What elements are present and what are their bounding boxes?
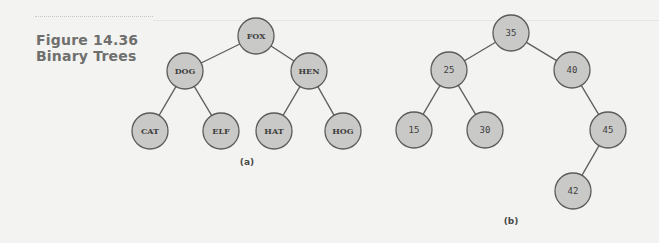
node-label: HAT — [264, 126, 283, 136]
node-label: 42 — [568, 186, 579, 196]
binary-trees-diagram: FOXDOGHENCATELFHATHOG 35254015304542 — [0, 0, 659, 243]
tree-b: 35254015304542 — [396, 15, 626, 209]
edge-HEN-HAT — [283, 87, 300, 116]
node-label: 35 — [506, 28, 517, 38]
edge-45-42 — [582, 146, 599, 176]
edge-25-15 — [423, 86, 440, 115]
tree-node-HAT: HAT — [256, 113, 292, 149]
tree-node-HEN: HEN — [291, 53, 327, 89]
node-label: CAT — [141, 126, 159, 136]
tree-node-42: 42 — [555, 173, 591, 209]
edge-25-30 — [458, 85, 475, 114]
tree-node-25: 25 — [431, 52, 467, 88]
edge-HEN-HOG — [318, 87, 334, 116]
node-label: FOX — [247, 31, 267, 41]
tree-node-HOG: HOG — [325, 113, 361, 149]
node-label: ELF — [212, 126, 230, 136]
tree-node-30: 30 — [467, 112, 503, 148]
node-label: DOG — [175, 66, 196, 76]
edge-35-25 — [464, 42, 495, 61]
tree-node-15: 15 — [396, 112, 432, 148]
node-label: 40 — [567, 65, 578, 75]
edge-FOX-HEN — [271, 46, 294, 61]
tree-node-45: 45 — [590, 112, 626, 148]
subfigure-label-b: (b) — [504, 216, 519, 226]
edge-35-40 — [526, 42, 556, 60]
tree-node-DOG: DOG — [167, 53, 203, 89]
node-label: HOG — [332, 126, 354, 136]
edge-DOG-ELF — [194, 86, 211, 115]
tree-node-FOX: FOX — [238, 18, 274, 54]
node-label: 15 — [409, 125, 420, 135]
edge-FOX-DOG — [201, 44, 240, 63]
node-label: 25 — [444, 65, 455, 75]
node-label: HEN — [299, 66, 320, 76]
node-label: 45 — [603, 125, 614, 135]
edge-40-45 — [581, 85, 598, 114]
tree-node-CAT: CAT — [132, 113, 168, 149]
tree-node-40: 40 — [554, 52, 590, 88]
node-label: 30 — [480, 125, 491, 135]
tree-node-ELF: ELF — [203, 113, 239, 149]
tree-a: FOXDOGHENCATELFHATHOG — [132, 18, 361, 149]
edge-DOG-CAT — [159, 87, 176, 116]
subfigure-label-a: (a) — [240, 157, 254, 167]
tree-node-35: 35 — [493, 15, 529, 51]
